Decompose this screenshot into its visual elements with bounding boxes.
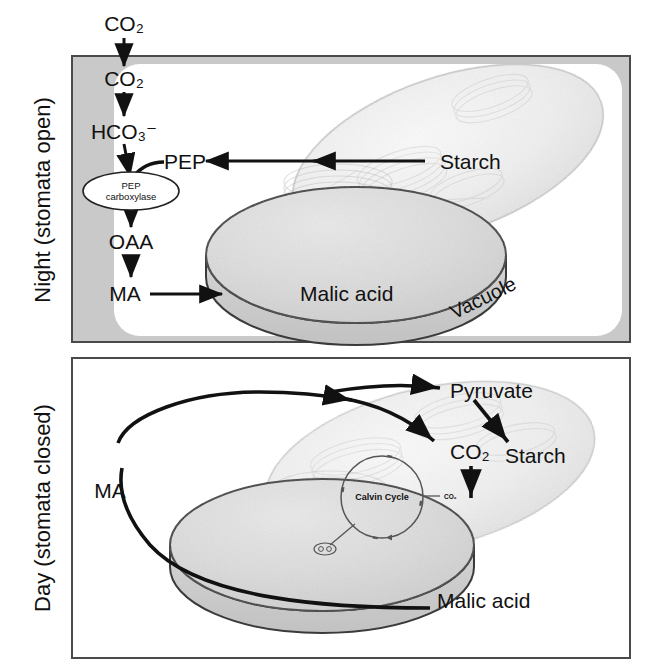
day-vacuole [170, 479, 474, 633]
night-ma-label: MA [109, 282, 141, 305]
pep-carboxylase-label-line2: carboxylase [106, 191, 157, 202]
night-bicarbonate-label: HCO₃⁻ [91, 120, 157, 143]
night-oaa-label: OAA [109, 230, 153, 253]
pep-carboxylase-label-line1: PEP [121, 180, 140, 191]
night-starch-label: Starch [440, 150, 501, 173]
day-panel: Day (stomata closed) [30, 352, 630, 658]
day-pyruvate-label: Pyruvate [450, 379, 533, 402]
night-panel: Night (stomata open) [30, 12, 630, 345]
cam-pathway-diagram: Night (stomata open) [0, 0, 652, 672]
night-panel-side-label: Night (stomata open) [30, 97, 55, 302]
day-ma-label: MA [94, 479, 126, 502]
pep-carboxylase-node: PEP carboxylase [83, 172, 179, 210]
day-starch-label: Starch [505, 444, 566, 467]
day-panel-side-label: Day (stomata closed) [30, 404, 55, 612]
night-co2-inside-label: CO₂ [104, 67, 144, 90]
calvin-co2-label: CO₂ [444, 493, 457, 500]
figure-canvas: Night (stomata open) [0, 0, 652, 672]
night-malic-acid-label: Malic acid [300, 282, 393, 305]
night-co2-outside-label: CO₂ [104, 12, 144, 35]
night-pep-label: PEP [164, 150, 206, 173]
day-malic-acid-label: Malic acid [437, 589, 530, 612]
calvin-cycle-label: Calvin Cycle [355, 492, 409, 502]
day-co2-label: CO₂ [450, 440, 490, 463]
